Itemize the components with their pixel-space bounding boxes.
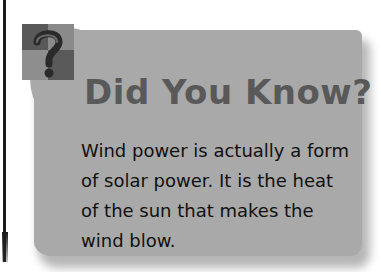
callout-body-line: of the sun that makes the [81,196,341,226]
callout-body: Wind power is actually a form of solar p… [81,136,341,256]
question-mark-icon [22,24,74,80]
callout-body-line: of solar power. It is the heat [81,166,341,196]
callout-body-line: wind blow. [81,226,341,256]
left-margin-rule-tail [2,232,8,262]
callout-body-line: Wind power is actually a form [81,136,341,166]
callout-title: Did You Know? [84,72,373,112]
left-margin-rule [3,0,6,262]
